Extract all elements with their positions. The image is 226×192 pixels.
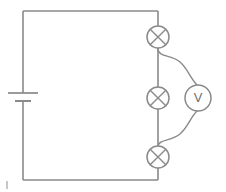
battery — [8, 93, 38, 101]
voltmeter-label: V — [194, 90, 203, 105]
lamp-middle — [147, 87, 169, 109]
circuit-diagram-canvas: V — [0, 0, 226, 192]
lamp-top — [147, 26, 169, 48]
voltmeter-lead-upper — [158, 49, 197, 85]
lamp-bottom — [147, 146, 169, 168]
main-loop-wires — [23, 11, 158, 180]
voltmeter: V — [185, 85, 211, 111]
circuit-schematic: V — [0, 0, 226, 192]
voltmeter-lead-lower — [158, 111, 197, 147]
